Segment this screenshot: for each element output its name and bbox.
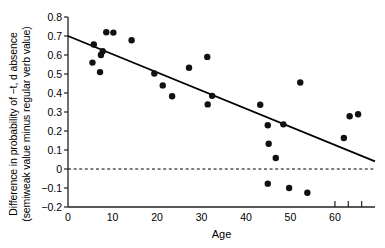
data-point (128, 37, 134, 43)
data-point (100, 48, 106, 54)
data-point (91, 41, 97, 47)
y-tick-label: 0.7 (24, 30, 62, 42)
data-point (304, 190, 310, 196)
data-point (297, 79, 303, 85)
data-point (204, 54, 210, 60)
x-tick-label: 40 (240, 211, 252, 223)
data-point (265, 180, 271, 186)
x-tick-label: 60 (329, 211, 341, 223)
x-tick-label: 10 (107, 211, 119, 223)
x-tick-label: 20 (151, 211, 163, 223)
y-tick-label: 0.6 (24, 49, 62, 61)
y-tick-label: 0.1 (24, 144, 62, 156)
y-tick-label: 0.8 (24, 11, 62, 23)
y-tick-label: 0 (24, 163, 62, 175)
data-point (341, 135, 347, 141)
x-tick-label: 30 (196, 211, 208, 223)
y-tick-label: 0.5 (24, 68, 62, 80)
data-point (346, 113, 352, 119)
y-tick-label: 0.2 (24, 125, 62, 137)
data-point (286, 185, 292, 191)
data-point (257, 102, 263, 108)
x-axis-label: Age (68, 228, 375, 240)
data-point (273, 155, 279, 161)
y-tick-label: −0.2 (24, 201, 62, 213)
data-point (97, 69, 103, 75)
data-point (186, 65, 192, 71)
data-point (205, 101, 211, 107)
y-tick-label: 0.3 (24, 106, 62, 118)
regression-line (68, 36, 375, 161)
data-point (169, 93, 175, 99)
x-tick-label: 50 (285, 211, 297, 223)
x-tick-label: 0 (65, 211, 71, 223)
data-point (110, 29, 116, 35)
scatter-chart-figure: Difference in probability of −t, d absen… (0, 0, 385, 248)
data-point (265, 122, 271, 128)
data-point (89, 59, 95, 65)
data-point (103, 29, 109, 35)
y-tick-label: 0.4 (24, 87, 62, 99)
data-point (355, 111, 361, 117)
data-point (280, 121, 286, 127)
data-point (160, 82, 166, 88)
data-point (209, 93, 215, 99)
data-point (265, 141, 271, 147)
y-tick-label: −0.1 (24, 182, 62, 194)
data-point (151, 70, 157, 76)
